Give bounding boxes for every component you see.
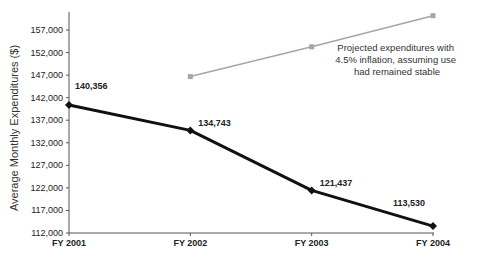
y-tick-label: 127,000 xyxy=(30,160,63,170)
data-label: 121,437 xyxy=(320,178,353,188)
y-tick-label: 137,000 xyxy=(30,115,63,125)
data-label: 113,530 xyxy=(393,198,425,208)
diamond-marker xyxy=(429,222,437,230)
annotation-line-2: 4.5% inflation, assuming use xyxy=(335,54,456,65)
line-chart: 112,000117,000122,000127,000132,000137,0… xyxy=(0,0,477,265)
y-tick-label: 142,000 xyxy=(30,93,63,103)
y-tick-label: 122,000 xyxy=(30,183,63,193)
annotation-line-1: Projected expenditures with xyxy=(337,42,454,53)
annotation-line-3: had remained stable xyxy=(354,66,440,77)
diamond-marker xyxy=(65,101,73,109)
y-tick-label: 132,000 xyxy=(30,138,63,148)
y-tick-label: 152,000 xyxy=(30,48,63,58)
annotation: Projected expenditures with 4.5% inflati… xyxy=(335,42,459,77)
x-tick-label: FY 2002 xyxy=(173,238,207,248)
y-ticks: 112,000117,000122,000127,000132,000137,0… xyxy=(30,25,69,238)
square-marker xyxy=(431,13,436,18)
x-tick-label: FY 2003 xyxy=(295,238,329,248)
y-tick-label: 112,000 xyxy=(31,228,63,238)
y-tick-label: 157,000 xyxy=(30,25,63,35)
data-label: 140,356 xyxy=(75,81,108,91)
square-marker xyxy=(188,74,193,79)
x-tick-label: FY 2004 xyxy=(416,238,450,248)
data-label: 134,743 xyxy=(198,118,231,128)
y-tick-label: 117,000 xyxy=(31,205,63,215)
series-actual: 140,356134,743121,437113,530 xyxy=(65,81,437,230)
x-tick-label: FY 2001 xyxy=(52,238,86,248)
actual-line xyxy=(69,105,433,226)
square-marker xyxy=(309,44,314,49)
y-axis-label: Average Monthly Expenditures ($) xyxy=(8,45,20,211)
x-ticks: FY 2001FY 2002FY 2003FY 2004 xyxy=(52,233,450,248)
y-tick-label: 147,000 xyxy=(30,70,63,80)
